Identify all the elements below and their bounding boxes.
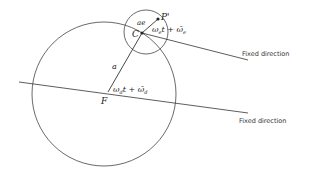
fixed-direction-lower-label: Fixed direction — [239, 117, 286, 125]
angle-label-deferent: ωdt + ω̄d — [113, 85, 147, 95]
label-p-prime: P' — [160, 12, 170, 22]
large-circle — [32, 22, 176, 166]
fixed-direction-upper-label: Fixed direction — [242, 50, 289, 58]
label-a: a — [112, 62, 117, 71]
point-p-prime — [156, 17, 159, 20]
point-c — [140, 31, 143, 34]
label-c: C — [132, 29, 139, 39]
label-f: F — [100, 96, 108, 106]
label-ae: ae — [137, 19, 145, 27]
orbit-diagram: P' C ae a F ωet + ω̄e ωdt + ω̄d Fixed di… — [0, 0, 320, 170]
angle-label-epicycle: ωet + ω̄e — [152, 25, 186, 35]
